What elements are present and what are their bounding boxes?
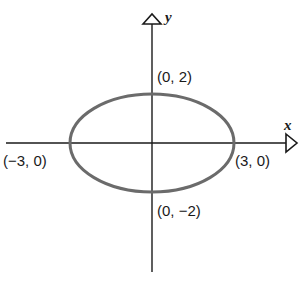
point-label-right: (3, 0) <box>235 152 270 169</box>
x-axis-label: x <box>283 117 292 133</box>
x-axis-arrow-icon <box>286 134 297 152</box>
point-label-bottom: (0, −2) <box>157 202 201 219</box>
ellipse-diagram: x y (0, 2) (0, −2) (−3, 0) (3, 0) <box>0 0 301 284</box>
point-label-left: (−3, 0) <box>3 152 47 169</box>
y-axis-arrow-icon <box>143 14 161 24</box>
y-axis-label: y <box>163 9 172 25</box>
point-label-top: (0, 2) <box>157 68 192 85</box>
